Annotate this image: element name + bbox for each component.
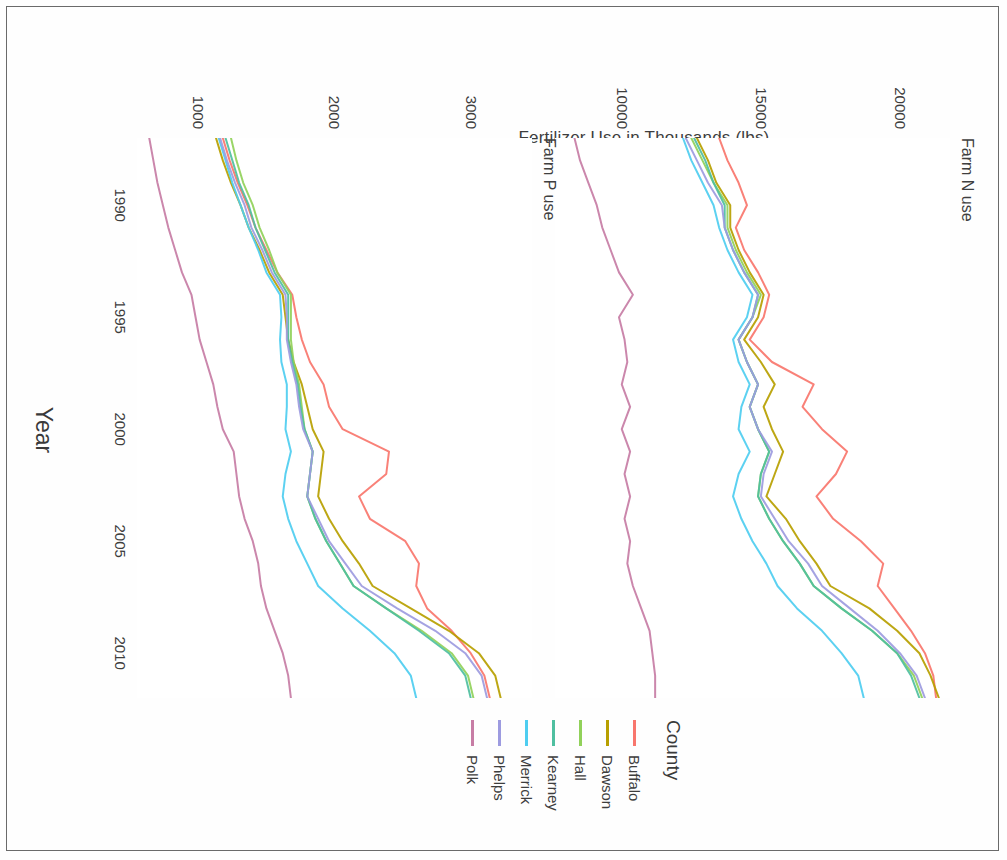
- series-line-buffalo: [719, 138, 936, 698]
- legend-item-phelps[interactable]: Phelps: [486, 720, 513, 835]
- series-line-merrick: [218, 138, 416, 698]
- x-axis-title: Year: [30, 20, 57, 840]
- legend-item-dawson[interactable]: Dawson: [594, 720, 621, 835]
- y-tick-label: 10000: [613, 87, 630, 129]
- legend-entries: BuffaloDawsonHallKearneyMerrickPhelpsPol…: [459, 720, 648, 835]
- legend-swatch-icon: [471, 720, 474, 746]
- y-tick-label: 1000: [189, 96, 206, 129]
- series-canvas: [137, 138, 532, 698]
- panel-title-farm-n-use: Farm N use: [958, 138, 976, 222]
- y-tick-label: 20000: [891, 87, 908, 129]
- legend-item-merrick[interactable]: Merrick: [513, 720, 540, 835]
- figure: Fertilizer Use in Thousands (lbs) Farm N…: [24, 20, 984, 840]
- legend-item-kearney[interactable]: Kearney: [540, 720, 567, 835]
- panel-farm-n-use: Farm N use 100001500020000: [555, 138, 950, 698]
- legend-swatch-icon: [633, 720, 636, 746]
- series-line-dawson: [696, 138, 938, 698]
- legend-item-hall[interactable]: Hall: [567, 720, 594, 835]
- legend-swatch-icon: [552, 720, 555, 746]
- y-tick-label: 3000: [462, 96, 479, 129]
- x-tick-label: 2000: [112, 413, 129, 446]
- x-tick-label: 1990: [112, 189, 129, 222]
- panel-farm-p-use: Farm P use 10002000300019901995200020052…: [137, 138, 532, 698]
- legend-swatch-icon: [498, 720, 501, 746]
- legend-item-label: Hall: [572, 755, 589, 781]
- legend-swatch-icon: [579, 720, 582, 746]
- x-tick-label: 2010: [112, 637, 129, 670]
- series-canvas: [555, 138, 950, 698]
- legend-item-polk[interactable]: Polk: [459, 720, 486, 835]
- legend-swatch-icon: [606, 720, 609, 746]
- legend-title: County: [662, 720, 684, 835]
- legend-swatch-icon: [525, 720, 528, 746]
- series-line-polk: [574, 138, 655, 698]
- series-line-phelps: [220, 138, 487, 698]
- y-tick-label: 15000: [752, 87, 769, 129]
- series-line-hall: [230, 138, 472, 698]
- legend-item-label: Kearney: [545, 755, 562, 811]
- x-tick-label: 2005: [112, 525, 129, 558]
- chart-page: Fertilizer Use in Thousands (lbs) Farm N…: [0, 0, 1007, 860]
- rotated-figure-wrapper: Fertilizer Use in Thousands (lbs) Farm N…: [24, 20, 984, 840]
- legend-item-label: Merrick: [518, 755, 535, 804]
- plot-area-farm-p-use: [137, 138, 532, 698]
- series-line-phelps: [685, 138, 924, 698]
- series-line-merrick: [682, 138, 863, 698]
- legend-item-label: Buffalo: [626, 755, 643, 801]
- x-tick-label: 1995: [112, 301, 129, 334]
- legend-item-label: Phelps: [491, 755, 508, 801]
- panel-title-farm-p-use: Farm P use: [540, 138, 558, 220]
- series-line-polk: [149, 138, 291, 698]
- series-line-buffalo: [222, 138, 489, 698]
- legend-item-label: Polk: [464, 755, 481, 784]
- legend: County BuffaloDawsonHallKearneyMerrickPh…: [459, 720, 684, 835]
- legend-item-label: Dawson: [599, 755, 616, 809]
- plot-area-farm-n-use: [555, 138, 950, 698]
- legend-item-buffalo[interactable]: Buffalo: [621, 720, 648, 835]
- y-tick-label: 2000: [326, 96, 343, 129]
